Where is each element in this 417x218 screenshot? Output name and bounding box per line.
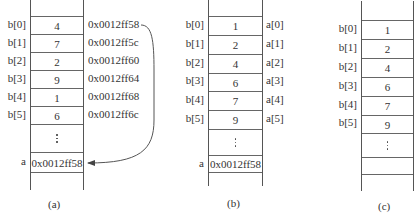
memory-cell: 4 bbox=[362, 58, 413, 77]
memory-cell: 7 bbox=[362, 96, 413, 115]
cell-value: 9 bbox=[233, 114, 239, 126]
cell-value: 2 bbox=[233, 39, 239, 51]
memory-cell: 9 bbox=[209, 110, 262, 129]
index-label: b[1] bbox=[178, 37, 204, 49]
index-label: b[0] bbox=[330, 22, 357, 34]
index-label: b[2] bbox=[178, 56, 204, 68]
memory-cell: 2 bbox=[362, 39, 413, 58]
index-label: b[4] bbox=[330, 98, 357, 110]
alias-label: a[1] bbox=[266, 37, 284, 49]
memory-cell: 1 bbox=[209, 16, 262, 35]
memory-cell: 7 bbox=[209, 91, 262, 110]
memory-column-b: 1 2 4 6 7 9 0x0012ff58 bbox=[208, 0, 263, 186]
alias-label: a[5] bbox=[266, 112, 284, 124]
alias-label: a[3] bbox=[266, 74, 284, 86]
memory-cell: 1 bbox=[362, 20, 413, 39]
memory-column-c: 1 2 4 6 7 9 bbox=[361, 1, 414, 191]
index-label: b[2] bbox=[330, 60, 357, 72]
cell-value: 6 bbox=[385, 81, 391, 93]
caption-a: (a) bbox=[48, 198, 60, 210]
caption-b: (b) bbox=[227, 197, 240, 209]
empty-cell bbox=[362, 157, 413, 175]
pointer-label: a bbox=[178, 157, 204, 169]
cell-value: 9 bbox=[385, 119, 391, 131]
memory-cell: 9 bbox=[362, 115, 413, 133]
cell-value: 6 bbox=[233, 77, 239, 89]
ellipsis-cell bbox=[209, 129, 262, 155]
cell-value: 7 bbox=[385, 100, 391, 112]
index-label: b[0] bbox=[178, 18, 204, 30]
vertical-ellipsis-icon bbox=[387, 141, 389, 150]
index-label: b[4] bbox=[178, 93, 204, 105]
cell-value: 4 bbox=[233, 58, 239, 70]
cell-value: 1 bbox=[385, 24, 391, 36]
caption-c: (c) bbox=[378, 200, 390, 212]
alias-label: a[4] bbox=[266, 93, 284, 105]
index-label: b[1] bbox=[330, 41, 357, 53]
pointer-value: 0x0012ff58 bbox=[210, 158, 261, 170]
memory-cell: 4 bbox=[209, 54, 262, 73]
cell-value: 1 bbox=[233, 20, 239, 32]
alias-label: a[0] bbox=[266, 18, 284, 30]
ellipsis-cell bbox=[362, 133, 413, 157]
index-label: b[5] bbox=[330, 116, 357, 128]
vertical-ellipsis-icon bbox=[235, 138, 237, 147]
memory-cell: 2 bbox=[209, 35, 262, 54]
pointer-cell: 0x0012ff58 bbox=[209, 155, 262, 173]
index-label: b[5] bbox=[178, 112, 204, 124]
memory-cell: 6 bbox=[362, 77, 413, 96]
index-label: b[3] bbox=[330, 79, 357, 91]
alias-label: a[2] bbox=[266, 56, 284, 68]
memory-cell: 6 bbox=[209, 73, 262, 91]
index-label: b[3] bbox=[178, 74, 204, 86]
cell-value: 4 bbox=[385, 62, 391, 74]
cell-value: 7 bbox=[233, 95, 239, 107]
cell-value: 2 bbox=[385, 43, 391, 55]
